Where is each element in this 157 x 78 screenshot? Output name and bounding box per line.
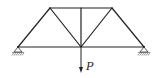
load-label: P <box>85 60 94 73</box>
truss-members <box>18 8 144 47</box>
load-arrow <box>79 48 83 73</box>
truss-member-EB <box>112 8 144 47</box>
truss-member-ME <box>81 8 112 47</box>
arrow-down-icon <box>79 67 83 73</box>
truss-member-CM <box>50 8 81 47</box>
truss-member-AC <box>18 8 50 47</box>
truss-diagram: P <box>0 0 157 78</box>
